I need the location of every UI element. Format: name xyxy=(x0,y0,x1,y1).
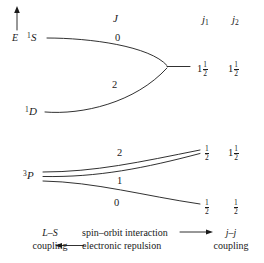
jj-state-middle-j2-whole: 1 xyxy=(228,148,233,159)
caption-jj-line1: j–j xyxy=(202,227,260,240)
jj-state-upper-j1-fraction: 1 2 xyxy=(203,61,208,78)
jj-state-middle-j2-fraction: 1 2 xyxy=(234,145,239,162)
jj-state-upper-j1-denominator: 2 xyxy=(203,70,208,78)
jj-state-lower-j2: 1 2 xyxy=(233,199,238,216)
term-1D-letter: D xyxy=(29,105,37,117)
diagram-curves xyxy=(0,0,264,263)
caption-interactions: spin–orbit interaction electronic repuls… xyxy=(82,227,182,252)
j-value-1S-0: 0 xyxy=(115,33,120,44)
jj-state-upper-j2: 1 1 2 xyxy=(228,61,239,78)
jj-state-lower-j2-fraction: 1 2 xyxy=(234,199,239,216)
jj-state-lower-j1-fraction: 1 2 xyxy=(205,199,210,216)
column-header-j1-subscript: 1 xyxy=(205,18,209,27)
jj-state-lower-j1-denominator: 2 xyxy=(205,208,210,216)
jj-state-middle-j2-denominator: 2 xyxy=(234,154,239,162)
caption-ls-line2: coupling xyxy=(12,240,88,253)
term-label-3P: 3P xyxy=(23,170,34,181)
term-3P-letter: P xyxy=(27,169,34,181)
jj-state-upper-j1-whole: 1 xyxy=(197,64,202,75)
jj-state-lower-j1: 1 2 xyxy=(204,199,209,216)
caption-electronic-repulsion: electronic repulsion xyxy=(82,240,182,253)
column-header-J: J xyxy=(113,13,118,24)
jj-state-middle-j2: 1 1 2 xyxy=(228,145,239,162)
jj-state-upper-j2-fraction: 1 2 xyxy=(234,61,239,78)
jj-state-middle-j1-denominator: 2 xyxy=(205,154,210,162)
jj-state-upper-j2-denominator: 2 xyxy=(234,70,239,78)
caption-ls-line1: L–S xyxy=(12,227,88,240)
energy-axis-label: E xyxy=(12,33,18,43)
term-1S-letter: S xyxy=(31,31,37,43)
caption-spin-orbit-interaction: spin–orbit interaction xyxy=(82,227,182,240)
j-value-3P-2: 2 xyxy=(117,148,122,159)
column-header-j2: j2 xyxy=(232,14,239,27)
term-label-1D: 1D xyxy=(25,106,37,117)
j-value-1D-2: 2 xyxy=(112,80,117,91)
jj-state-upper-j1: 1 1 2 xyxy=(197,61,208,78)
jj-state-upper-j2-whole: 1 xyxy=(228,64,233,75)
j-value-3P-0: 0 xyxy=(114,198,119,209)
energy-axis-arrowhead xyxy=(14,6,20,13)
jj-state-lower-j2-denominator: 2 xyxy=(234,208,239,216)
energy-level-correlation-diagram: E J j1 j2 1S 1D 3P 0 2 2 1 0 1 1 2 1 1 2 xyxy=(0,0,264,263)
caption-jj-coupling: j–j coupling xyxy=(202,227,260,252)
j-value-3P-1: 1 xyxy=(117,176,122,187)
caption-ls-coupling: L–S coupling xyxy=(12,227,88,252)
jj-state-middle-j1-fraction: 1 2 xyxy=(205,145,210,162)
term-label-1S: 1S xyxy=(27,32,36,43)
curve-1S-to-upper xyxy=(47,38,167,66)
curve-1D-to-upper xyxy=(45,68,167,112)
column-header-j1: j1 xyxy=(202,14,209,27)
caption-jj-line2: coupling xyxy=(202,240,260,253)
jj-state-middle-j1: 1 2 xyxy=(204,145,209,162)
column-header-j2-subscript: 2 xyxy=(235,18,239,27)
